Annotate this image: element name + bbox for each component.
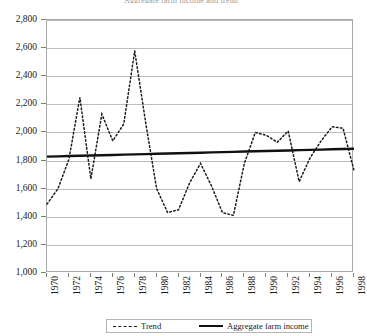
y-axis: 1,0001,2001,4001,6001,8002,0002,2002,400… (0, 19, 42, 272)
x-tick-label: 1998 (357, 276, 367, 295)
y-tick-label: 1,000 (16, 267, 37, 277)
chart-title: Aggregate farm income and trend (0, 0, 362, 3)
x-tick-mark (178, 273, 179, 277)
x-tick-mark (243, 273, 244, 277)
solid-line-icon (199, 323, 223, 330)
x-tick-mark (68, 273, 69, 277)
series-layer (47, 20, 352, 271)
y-tick-label: 2,600 (16, 42, 37, 52)
legend-entry-trend: Trend (113, 320, 161, 332)
x-tick-label: 1994 (313, 276, 323, 295)
x-tick-mark (112, 273, 113, 277)
x-tick-mark (134, 273, 135, 277)
series-paths (47, 20, 354, 273)
x-tick-label: 1990 (269, 276, 279, 295)
x-tick-label: 1980 (160, 276, 170, 295)
x-tick-label: 1970 (50, 276, 60, 295)
plot-area (46, 19, 353, 272)
y-tick-label: 1,400 (16, 211, 37, 221)
legend-label-aggregate-farm-income: Aggregate farm income (227, 321, 309, 331)
x-axis: 1970197219741976197819801982198419861988… (46, 273, 353, 313)
y-tick-label: 2,000 (16, 126, 37, 136)
y-tick-label: 2,800 (16, 14, 37, 24)
y-tick-label: 1,200 (16, 239, 37, 249)
x-tick-label: 1972 (72, 276, 82, 295)
x-tick-mark (353, 273, 354, 277)
x-tick-mark (331, 273, 332, 277)
x-tick-mark (309, 273, 310, 277)
x-tick-label: 1976 (116, 276, 126, 295)
y-tick-label: 1,600 (16, 183, 37, 193)
x-tick-mark (90, 273, 91, 277)
x-tick-label: 1988 (247, 276, 257, 295)
x-tick-mark (156, 273, 157, 277)
x-tick-label: 1984 (204, 276, 214, 295)
legend-entry-aggregate-farm-income: Aggregate farm income (199, 320, 309, 332)
x-tick-mark (46, 273, 47, 277)
series-line (47, 51, 354, 215)
y-tick-label: 2,200 (16, 98, 37, 108)
y-tick-label: 2,400 (16, 70, 37, 80)
y-tick-label: 1,800 (16, 155, 37, 165)
x-tick-mark (287, 273, 288, 277)
x-tick-mark (265, 273, 266, 277)
x-tick-label: 1986 (225, 276, 235, 295)
x-tick-label: 1996 (335, 276, 345, 295)
x-tick-label: 1978 (138, 276, 148, 295)
legend-label-trend: Trend (141, 321, 161, 331)
x-tick-label: 1992 (291, 276, 301, 295)
x-tick-label: 1982 (182, 276, 192, 295)
x-tick-mark (200, 273, 201, 277)
series-line (47, 149, 354, 157)
chart-legend: Trend Aggregate farm income (106, 319, 312, 333)
x-tick-mark (221, 273, 222, 277)
dashed-line-icon (113, 323, 137, 330)
x-tick-label: 1974 (94, 276, 104, 295)
